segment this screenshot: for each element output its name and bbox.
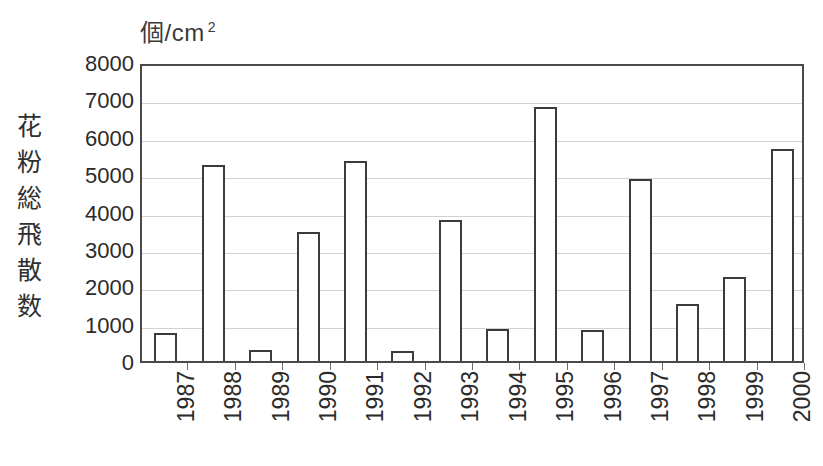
x-axis-tick	[757, 363, 758, 370]
y-axis-tick-label: 4000	[52, 203, 134, 225]
bars-layer	[142, 66, 802, 361]
y-axis-tick-label: 2000	[52, 277, 134, 299]
y-axis-tick-label: 5000	[52, 165, 134, 187]
bar	[676, 304, 699, 361]
x-axis-tick-label: 1998	[696, 371, 719, 457]
x-axis-tick	[804, 363, 805, 370]
x-axis-tick	[519, 363, 520, 370]
x-axis-tick	[187, 363, 188, 370]
y-axis-tick-label: 3000	[52, 240, 134, 262]
plot-area	[140, 64, 804, 363]
y-axis-title: 花粉総飛散数	[12, 108, 46, 324]
x-axis-tick-label: 1994	[507, 371, 530, 457]
x-axis-tick	[567, 363, 568, 370]
x-axis-tick-label: 1996	[602, 371, 625, 457]
x-axis-tick	[377, 363, 378, 370]
x-axis-tick	[614, 363, 615, 370]
x-axis-tick-label: 1987	[175, 371, 198, 457]
y-axis-tick-labels: 800070006000500040003000200010000	[52, 64, 134, 364]
x-axis-tick-label: 1988	[222, 371, 245, 457]
y-axis-tick-label: 7000	[52, 90, 134, 112]
bar	[771, 149, 794, 361]
bar	[154, 333, 177, 361]
x-axis-tick	[235, 363, 236, 370]
y-axis-title-char: 粉	[12, 144, 46, 180]
bar	[534, 107, 557, 361]
x-axis-tick	[282, 363, 283, 370]
bar	[249, 350, 272, 361]
y-axis-title-char: 散	[12, 252, 46, 288]
x-axis-tick	[662, 363, 663, 370]
y-axis-title-char: 花	[12, 108, 46, 144]
bar	[344, 161, 367, 361]
y-axis-tick-label: 0	[52, 352, 134, 374]
bar	[486, 329, 509, 361]
x-axis-tick-label: 2000	[791, 371, 814, 457]
x-axis-tick	[425, 363, 426, 370]
x-axis-tick-label: 1989	[270, 371, 293, 457]
x-axis-tick	[330, 363, 331, 370]
x-axis-tick	[472, 363, 473, 370]
pollen-dispersal-bar-chart: 個/cm2 花粉総飛散数 800070006000500040003000200…	[0, 0, 823, 466]
x-axis-ticks	[140, 363, 804, 371]
y-axis-unit-label: 個/cm2	[140, 20, 216, 45]
bar	[581, 330, 604, 361]
bar	[629, 179, 652, 361]
y-axis-tick-label: 6000	[52, 128, 134, 150]
unit-text: 個/cm	[140, 19, 205, 46]
x-axis-tick-label: 1997	[649, 371, 672, 457]
x-axis-tick-label: 1999	[744, 371, 767, 457]
bar	[391, 351, 414, 361]
y-axis-title-char: 数	[12, 288, 46, 324]
bar	[202, 165, 225, 361]
unit-superscript: 2	[208, 19, 216, 35]
bar	[439, 220, 462, 361]
y-axis-tick-label: 1000	[52, 315, 134, 337]
y-axis-tick-label: 8000	[52, 53, 134, 75]
x-axis-tick-label: 1993	[459, 371, 482, 457]
bar	[297, 232, 320, 361]
x-axis-tick-label: 1991	[364, 371, 387, 457]
y-axis-title-char: 総	[12, 180, 46, 216]
x-axis-tick-label: 1992	[412, 371, 435, 457]
x-axis-tick-labels: 1987198819891990199119921993199419951996…	[140, 371, 804, 461]
x-axis-tick-label: 1995	[554, 371, 577, 457]
x-axis-tick-label: 1990	[317, 371, 340, 457]
x-axis-tick	[709, 363, 710, 370]
y-axis-title-char: 飛	[12, 216, 46, 252]
bar	[723, 277, 746, 361]
